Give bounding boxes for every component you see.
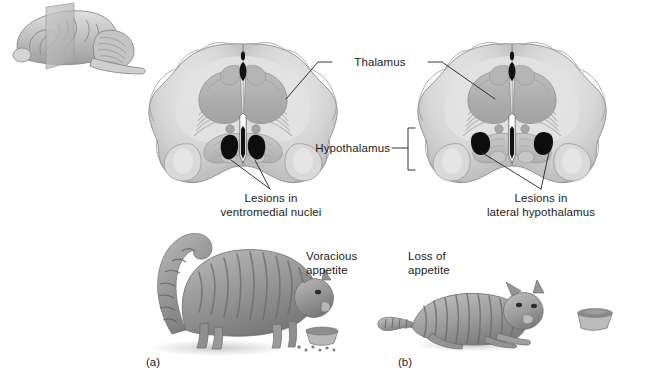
panel-letter-b: (b) bbox=[384, 356, 426, 369]
food-bowl-b bbox=[578, 312, 612, 331]
lesion-ventromedial-left bbox=[221, 135, 238, 160]
leader-thalamus-right bbox=[428, 62, 495, 99]
coronal-section-plane bbox=[46, 3, 74, 69]
leader-lesion-vm-right bbox=[255, 160, 270, 189]
leader-lesion-vm-left bbox=[231, 160, 270, 189]
panel-letter-a: (a) bbox=[132, 356, 174, 369]
label-loss-of-appetite: Loss of appetite bbox=[408, 250, 478, 277]
lesion-lateral-left bbox=[471, 132, 490, 155]
figure-root: Thalamus Hypothalamus Lesions in ventrom… bbox=[0, 0, 652, 387]
lesion-ventromedial-right bbox=[248, 135, 265, 160]
brain-inset bbox=[13, 3, 145, 74]
lesion-lateral-right bbox=[534, 132, 553, 155]
label-thalamus: Thalamus bbox=[332, 56, 428, 70]
leader-lines bbox=[231, 62, 549, 189]
coronal-section-ventromedial bbox=[149, 43, 337, 183]
label-lesions-ventromedial: Lesions in ventromedial nuclei bbox=[198, 192, 344, 219]
food-bowl-a bbox=[306, 329, 338, 346]
label-hypothalamus: Hypothalamus bbox=[286, 142, 390, 156]
coronal-section-lateral bbox=[418, 43, 606, 183]
cat-emaciated bbox=[378, 280, 613, 352]
label-lesions-lateral: Lesions in lateral hypothalamus bbox=[466, 192, 616, 219]
leader-lesion-lat-left bbox=[481, 152, 541, 189]
leader-lesion-lat-right bbox=[541, 152, 549, 189]
bracket-hypothalamus bbox=[408, 128, 415, 170]
leader-thalamus-left bbox=[286, 62, 332, 99]
label-voracious-appetite: Voracious appetite bbox=[306, 250, 384, 277]
